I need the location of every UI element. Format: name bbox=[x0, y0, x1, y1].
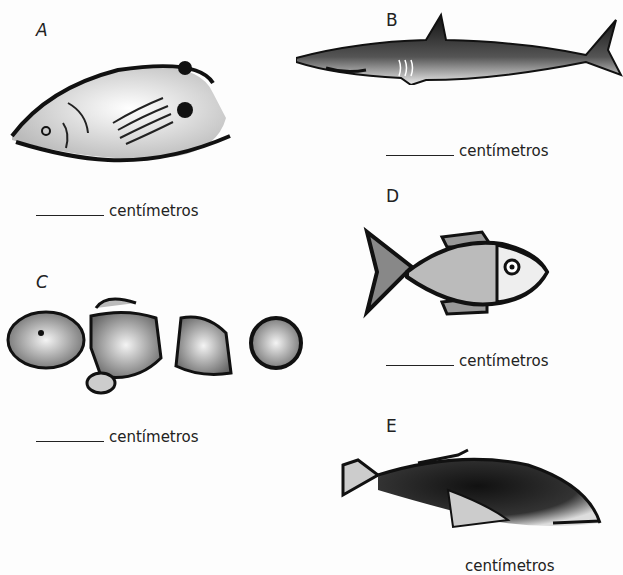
item-a-letter: A bbox=[36, 20, 48, 40]
clownfish-illustration bbox=[6, 288, 306, 400]
item-e-letter: E bbox=[386, 416, 397, 436]
item-d-answer: centímetros bbox=[386, 352, 549, 370]
unit-label-d: centímetros bbox=[459, 352, 549, 370]
unit-label-e: centímetros bbox=[465, 557, 555, 575]
unit-label-c: centímetros bbox=[109, 428, 199, 446]
item-a-answer: centímetros bbox=[36, 202, 199, 220]
answer-blank-b[interactable] bbox=[386, 155, 454, 156]
shark-illustration bbox=[296, 10, 623, 85]
grouper-illustration bbox=[338, 435, 603, 535]
unit-label-a: centímetros bbox=[109, 202, 199, 220]
scaled-fish-illustration bbox=[362, 222, 552, 322]
item-b-answer: centímetros bbox=[386, 142, 549, 160]
item-c-answer: centímetros bbox=[36, 428, 199, 446]
butterflyfish-illustration bbox=[8, 48, 238, 173]
answer-blank-a[interactable] bbox=[36, 215, 104, 216]
item-e-answer: centímetros bbox=[465, 557, 555, 575]
unit-label-b: centímetros bbox=[459, 142, 549, 160]
answer-blank-c[interactable] bbox=[36, 441, 104, 442]
answer-blank-d[interactable] bbox=[386, 365, 454, 366]
item-d-letter: D bbox=[386, 186, 399, 206]
